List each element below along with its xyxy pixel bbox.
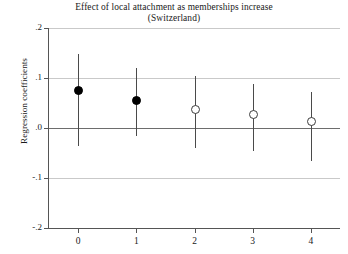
x-tick-mark xyxy=(311,229,312,233)
data-point-marker xyxy=(74,86,83,95)
y-tick-label: -.2 xyxy=(0,223,42,232)
data-point-marker xyxy=(132,96,141,105)
gridline xyxy=(49,28,340,29)
y-tick-label: .2 xyxy=(0,23,42,32)
y-tick-label: .0 xyxy=(0,123,42,132)
confidence-interval-bar xyxy=(78,54,79,147)
x-tick-label: 2 xyxy=(182,236,208,246)
chart-title-block: Effect of local attachment as membership… xyxy=(0,2,348,24)
confidence-interval-bar xyxy=(311,92,312,161)
x-tick-label: 0 xyxy=(65,236,91,246)
y-tick-label: -.1 xyxy=(0,173,42,182)
x-tick-label: 4 xyxy=(298,236,324,246)
chart-figure: Effect of local attachment as membership… xyxy=(0,0,348,254)
data-point-marker xyxy=(249,110,258,119)
y-tick-label: .1 xyxy=(0,73,42,82)
data-point-marker xyxy=(307,117,316,126)
gridline xyxy=(49,178,340,179)
x-tick-mark xyxy=(136,229,137,233)
chart-title: Effect of local attachment as membership… xyxy=(0,2,348,13)
x-tick-mark xyxy=(195,229,196,233)
data-point-marker xyxy=(191,105,200,114)
x-tick-mark xyxy=(78,229,79,233)
y-axis-title: Regression coefficients xyxy=(19,21,29,181)
plot-area xyxy=(49,28,340,228)
chart-subtitle: (Switzerland) xyxy=(0,13,348,24)
x-tick-label: 1 xyxy=(123,236,149,246)
y-tick-mark xyxy=(44,228,49,229)
x-tick-mark xyxy=(253,229,254,233)
x-tick-label: 3 xyxy=(240,236,266,246)
